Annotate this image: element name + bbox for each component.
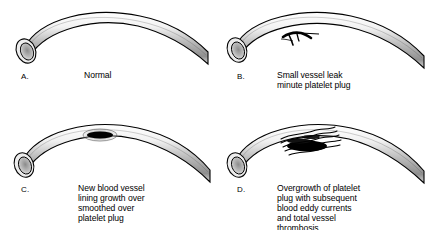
panel-b-letter: B. bbox=[237, 72, 245, 81]
panel-c-caption: C. New blood vessel lining growth over s… bbox=[0, 181, 215, 228]
vessel-tube-body bbox=[24, 13, 208, 64]
panel-a-text: Normal bbox=[84, 71, 111, 81]
panel-d-text: Overgrowth of platelet plug with subsequ… bbox=[277, 184, 360, 230]
vessel-illustration-thrombosis bbox=[215, 113, 430, 189]
panel-d: D. Overgrowth of platelet plug with subs… bbox=[215, 113, 430, 228]
vessel-thrombosis-figure: A. Normal bbox=[0, 0, 430, 230]
panel-d-letter: D. bbox=[237, 185, 245, 194]
panel-a-letter: A. bbox=[21, 72, 29, 81]
panel-c: C. New blood vessel lining growth over s… bbox=[0, 113, 215, 228]
panel-a: A. Normal bbox=[0, 0, 215, 115]
panel-d-caption: D. Overgrowth of platelet plug with subs… bbox=[215, 181, 430, 228]
vessel-tube-body bbox=[235, 13, 424, 68]
panel-b-caption: B. Small vessel leak minute platelet plu… bbox=[215, 68, 430, 115]
vessel-tube-body bbox=[235, 125, 424, 183]
smoothed-platelet-plug bbox=[80, 127, 120, 143]
platelet-plug-lesion bbox=[281, 33, 319, 45]
panel-b: B. Small vessel leak minute platelet plu… bbox=[215, 0, 430, 115]
vessel-illustration-healed-lining bbox=[0, 113, 215, 189]
vessel-illustration-small-leak bbox=[215, 0, 430, 76]
panel-c-letter: C. bbox=[21, 185, 29, 194]
panel-b-text: Small vessel leak minute platelet plug bbox=[277, 71, 351, 91]
panel-c-text: New blood vessel lining growth over smoo… bbox=[78, 184, 145, 224]
vessel-illustration-normal bbox=[0, 0, 215, 76]
panel-a-caption: A. Normal bbox=[0, 68, 215, 115]
